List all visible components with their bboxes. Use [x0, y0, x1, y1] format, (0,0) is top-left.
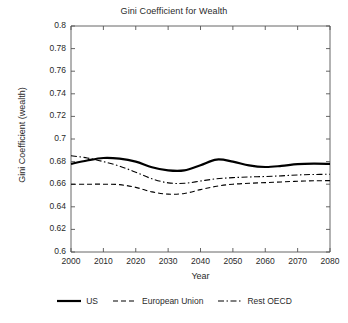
y-tick-label: 0.8 — [6, 21, 66, 30]
series-line-us — [71, 158, 330, 171]
y-tick-label: 0.68 — [6, 157, 66, 166]
x-axis-label: Year — [71, 271, 330, 281]
series-line-european-union — [71, 181, 330, 195]
y-tick-label: 0.7 — [6, 134, 66, 143]
legend-item-us[interactable]: US — [56, 296, 98, 306]
x-tick-label: 2080 — [310, 256, 348, 266]
legend-label: European Union — [142, 296, 203, 306]
legend-swatch-solid-icon — [56, 296, 82, 306]
y-axis-tick-labels: 0.60.620.640.660.680.70.720.740.760.780.… — [0, 0, 66, 323]
y-tick-label: 0.78 — [6, 44, 66, 53]
chart-legend: USEuropean UnionRest OECD — [0, 296, 348, 306]
legend-swatch-dashdot-icon — [217, 296, 243, 306]
data-series-group — [71, 156, 330, 195]
y-tick-label: 0.74 — [6, 89, 66, 98]
legend-swatch-dashed-icon — [112, 296, 138, 306]
legend-item-rest-oecd[interactable]: Rest OECD — [217, 296, 291, 306]
legend-label: US — [86, 296, 98, 306]
y-tick-label: 0.62 — [6, 224, 66, 233]
y-tick-label: 0.76 — [6, 66, 66, 75]
axis-tick-marks — [71, 26, 330, 252]
y-tick-label: 0.72 — [6, 111, 66, 120]
legend-label: Rest OECD — [247, 296, 291, 306]
axes-lines — [71, 26, 330, 252]
series-line-rest-oecd — [71, 156, 330, 184]
y-tick-label: 0.64 — [6, 202, 66, 211]
chart-figure: Gini Coefficient for Wealth Gini Coeffic… — [0, 0, 348, 323]
y-tick-label: 0.66 — [6, 179, 66, 188]
legend-item-european-union[interactable]: European Union — [112, 296, 203, 306]
y-tick-label: 0.6 — [6, 247, 66, 256]
